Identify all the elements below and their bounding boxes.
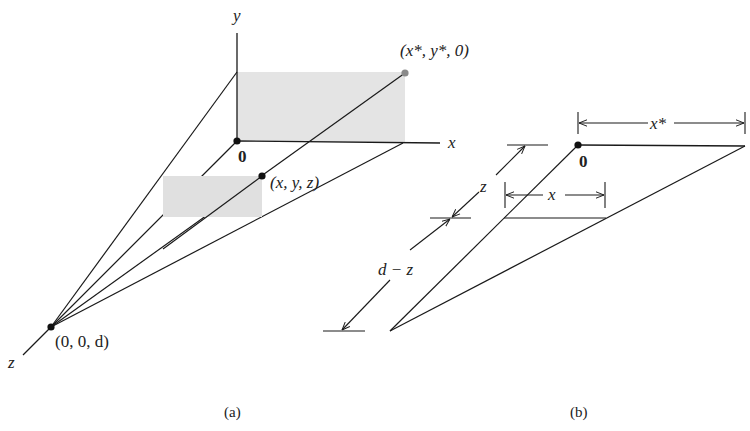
- x-label: x: [547, 185, 556, 204]
- z-label: z: [479, 177, 487, 196]
- object-point-label: (x, y, z): [270, 173, 319, 192]
- projected-point: [401, 69, 408, 76]
- d-minus-z-arrow-down: [342, 280, 390, 330]
- figure-canvas: y x z 0 (x*, y*, 0) (x, y, z) (0, 0, d) …: [0, 0, 750, 431]
- origin-point: [233, 137, 240, 144]
- origin-point-b: [574, 141, 581, 148]
- x-axis-label: x: [447, 133, 456, 152]
- d-minus-z-arrow-up: [410, 219, 450, 250]
- object-rectangle: [163, 176, 262, 217]
- x-star-label: x*: [649, 114, 667, 133]
- z-axis-label: z: [7, 353, 15, 372]
- z-arrow-up: [496, 146, 525, 175]
- eye-point-label: (0, 0, d): [55, 332, 109, 351]
- right-ray: [390, 146, 745, 331]
- ray-to-origin: [51, 141, 237, 327]
- figure-a: y x z 0 (x*, y*, 0) (x, y, z) (0, 0, d) …: [7, 6, 469, 421]
- caption-b: (b): [570, 404, 588, 421]
- z-arrow-down: [452, 192, 479, 217]
- d-minus-z-label: d − z: [378, 260, 413, 279]
- object-point: [258, 172, 265, 179]
- eye-point: [47, 323, 54, 330]
- top-edge: [578, 145, 745, 146]
- projected-point-label: (x*, y*, 0): [400, 41, 469, 60]
- caption-a: (a): [224, 404, 241, 421]
- origin-label-a: 0: [238, 147, 247, 166]
- projection-plane: [237, 72, 405, 142]
- origin-label-b: 0: [579, 152, 588, 171]
- perspective-projection-figure: y x z 0 (x*, y*, 0) (x, y, z) (0, 0, d) …: [0, 0, 750, 431]
- z-axis: [23, 327, 51, 355]
- figure-b: 0 x* x z d − z (b): [323, 112, 745, 421]
- ray-to-plane-bottom-right: [51, 143, 403, 327]
- left-ray: [390, 145, 578, 331]
- y-axis-label: y: [231, 6, 241, 25]
